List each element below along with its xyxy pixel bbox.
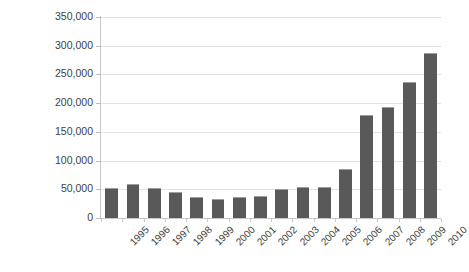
y-axis-tick-label: 300,000	[0, 40, 93, 51]
x-axis-tick-label: 2000	[233, 224, 257, 248]
x-axis-tick-label: 2008	[403, 224, 427, 248]
bar-slot	[297, 17, 310, 218]
y-axis-tick-label: 150,000	[0, 126, 93, 137]
x-axis-tick-label: 1999	[212, 224, 236, 248]
bar	[360, 115, 373, 218]
x-axis-tick-label: 1997	[170, 224, 194, 248]
bar-slot	[339, 17, 352, 218]
y-axis-tick-label: 350,000	[0, 11, 93, 22]
bar-slot	[360, 17, 373, 218]
bar	[403, 82, 416, 218]
y-axis-labels: 050,000100,000150,000200,000250,000300,0…	[0, 0, 93, 272]
y-axis-tick	[96, 218, 101, 219]
x-axis-tick-label: 2001	[255, 224, 279, 248]
x-axis-tick	[377, 219, 378, 222]
x-axis-tick-label: 1996	[148, 224, 172, 248]
x-axis-tick-label: 1995	[127, 224, 151, 248]
y-axis-tick	[96, 132, 101, 133]
bar	[254, 196, 267, 218]
bar-slot	[169, 17, 182, 218]
x-axis-tick	[207, 219, 208, 222]
y-axis-tick	[96, 189, 101, 190]
bar-slot	[275, 17, 288, 218]
bar	[318, 187, 331, 218]
y-axis-tick-label: 200,000	[0, 97, 93, 108]
x-axis-tick	[250, 219, 251, 222]
x-axis-tick	[186, 219, 187, 222]
bar	[148, 188, 161, 218]
bar	[297, 187, 310, 218]
bar-series	[101, 17, 441, 218]
x-axis-tick	[101, 219, 102, 222]
bar	[233, 197, 246, 218]
bar-slot	[190, 17, 203, 218]
bar	[169, 192, 182, 218]
y-axis-tick	[96, 46, 101, 47]
bar-slot	[254, 17, 267, 218]
bar-slot	[105, 17, 118, 218]
y-axis-tick	[96, 103, 101, 104]
y-axis-tick-label: 0	[0, 212, 93, 223]
bar-slot	[382, 17, 395, 218]
bar-slot	[424, 17, 437, 218]
bar-slot	[212, 17, 225, 218]
x-axis-tick	[229, 219, 230, 222]
x-axis-tick-label: 2002	[276, 224, 300, 248]
y-axis-tick	[96, 161, 101, 162]
x-axis-tick-label: 2004	[318, 224, 342, 248]
y-axis-tick	[96, 74, 101, 75]
x-axis-tick	[399, 219, 400, 222]
bar-slot	[233, 17, 246, 218]
x-axis-tick-label: 2009	[425, 224, 449, 248]
x-axis-tick	[122, 219, 123, 222]
x-axis-tick-label: 2010	[446, 224, 469, 248]
y-axis-tick	[96, 17, 101, 18]
x-axis-labels: 1995199619971998199920002001200220032004…	[101, 219, 441, 272]
bar-slot	[403, 17, 416, 218]
bar	[424, 53, 437, 218]
x-axis-tick-label: 2005	[340, 224, 364, 248]
x-axis-tick	[441, 219, 442, 222]
x-axis-tick-label: 1998	[191, 224, 215, 248]
x-axis-tick	[271, 219, 272, 222]
bar-slot	[127, 17, 140, 218]
x-axis-tick	[335, 219, 336, 222]
x-axis-tick	[165, 219, 166, 222]
x-axis-tick-label: 2006	[361, 224, 385, 248]
bar	[127, 184, 140, 218]
bar	[339, 169, 352, 218]
x-axis-tick	[356, 219, 357, 222]
y-axis-tick-label: 100,000	[0, 155, 93, 166]
x-axis-tick	[420, 219, 421, 222]
x-axis-tick-label: 2007	[382, 224, 406, 248]
bar-slot	[148, 17, 161, 218]
x-axis-tick	[144, 219, 145, 222]
x-axis-tick	[314, 219, 315, 222]
bar	[190, 197, 203, 218]
y-axis-tick-label: 250,000	[0, 68, 93, 79]
bar-slot	[318, 17, 331, 218]
bar	[212, 199, 225, 218]
bar	[275, 189, 288, 218]
y-axis-tick-label: 50,000	[0, 183, 93, 194]
x-axis-tick	[292, 219, 293, 222]
bar	[105, 188, 118, 218]
x-axis-tick-label: 2003	[297, 224, 321, 248]
bar	[382, 107, 395, 218]
